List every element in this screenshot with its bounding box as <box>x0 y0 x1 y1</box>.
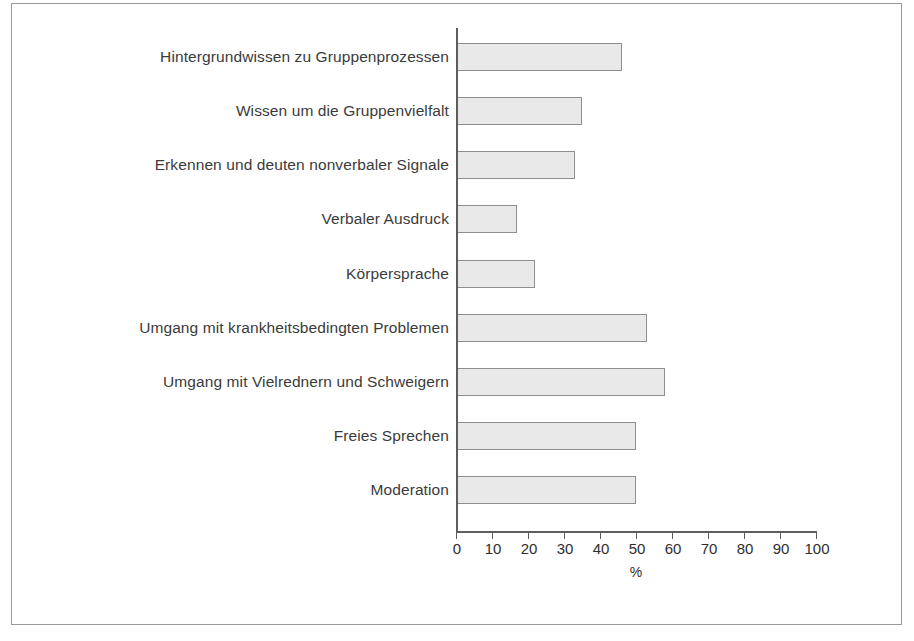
x-tick <box>600 531 601 539</box>
x-tick-label: 60 <box>665 540 682 557</box>
category-label: Freies Sprechen <box>334 422 449 450</box>
bar-7 <box>456 422 636 450</box>
x-tick <box>492 531 493 539</box>
x-tick <box>780 531 781 539</box>
x-tick <box>564 531 565 539</box>
x-tick-label: 30 <box>557 540 574 557</box>
x-tick <box>744 531 745 539</box>
bar-4 <box>456 260 535 288</box>
x-tick-label: 10 <box>485 540 502 557</box>
x-tick-label: 0 <box>453 540 461 557</box>
bar-1 <box>456 97 582 125</box>
bar-chart-plot-area: Hintergrundwissen zu Gruppenprozessen Wi… <box>12 4 901 624</box>
x-tick <box>528 531 529 539</box>
x-tick-label: 90 <box>773 540 790 557</box>
x-tick-label: 70 <box>701 540 718 557</box>
category-label: Wissen um die Gruppenvielfalt <box>236 97 449 125</box>
x-tick-label: 40 <box>593 540 610 557</box>
x-tick-label: 80 <box>737 540 754 557</box>
category-label: Moderation <box>370 476 449 504</box>
chart-frame: Hintergrundwissen zu Gruppenprozessen Wi… <box>11 3 902 625</box>
x-tick <box>456 531 457 539</box>
x-tick-label: 50 <box>629 540 646 557</box>
category-label: Umgang mit Vielrednern und Schweigern <box>163 368 449 396</box>
category-label: Hintergrundwissen zu Gruppenprozessen <box>160 43 449 71</box>
x-tick <box>636 531 637 539</box>
category-label: Umgang mit krankheitsbedingten Problemen <box>139 314 449 342</box>
bar-6 <box>456 368 665 396</box>
bar-2 <box>456 151 575 179</box>
x-tick-label: 20 <box>521 540 538 557</box>
category-label: Verbaler Ausdruck <box>322 205 450 233</box>
bar-5 <box>456 314 647 342</box>
x-tick <box>672 531 673 539</box>
x-tick <box>708 531 709 539</box>
category-label: Körpersprache <box>346 260 449 288</box>
bar-0 <box>456 43 622 71</box>
x-axis-title: % <box>630 564 642 580</box>
x-tick <box>816 531 817 539</box>
category-label: Erkennen und deuten nonverbaler Signale <box>155 151 449 179</box>
bar-8 <box>456 476 636 504</box>
bar-3 <box>456 205 517 233</box>
x-tick-label: 100 <box>804 540 829 557</box>
y-axis-spine <box>456 28 458 533</box>
